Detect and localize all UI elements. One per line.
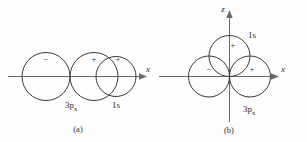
panel-b-plus-sign: + bbox=[250, 64, 255, 74]
panel-b-p-orbital-label: 3px bbox=[243, 104, 256, 116]
panel-b-x-axis-label: x bbox=[280, 64, 285, 74]
panel-a-s-plus-sign: + bbox=[116, 54, 121, 64]
panel-b-minus-sign: − bbox=[207, 64, 212, 74]
orbital-overlap-figure: − + + 3px 1s x (a) − + + 3px bbox=[0, 0, 307, 142]
panel-a-plus-sign: + bbox=[92, 54, 97, 64]
panel-b-caption: (b) bbox=[224, 125, 234, 135]
panel-b-diagram: − + + 3px 1s x z (b) bbox=[153, 0, 307, 142]
panel-a-x-axis-label: x bbox=[145, 64, 150, 74]
panel-a-s-orbital-label: 1s bbox=[112, 100, 121, 110]
panel-a-minus-sign: − bbox=[44, 54, 49, 64]
panel-a-caption: (a) bbox=[73, 124, 83, 134]
panel-b-x-axis bbox=[159, 73, 279, 79]
panel-b-z-axis bbox=[226, 10, 232, 122]
panel-a-diagram: − + + 3px 1s x (a) bbox=[0, 0, 153, 142]
panel-b-s-orbital-label: 1s bbox=[248, 30, 257, 40]
panel-a-x-axis bbox=[8, 73, 147, 79]
panel-b-s-plus-sign: + bbox=[231, 40, 236, 50]
panel-a-p-orbital-label: 3px bbox=[65, 100, 78, 112]
panel-b-z-axis-label: z bbox=[220, 4, 225, 14]
